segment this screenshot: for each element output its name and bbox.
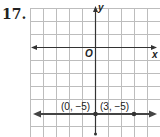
point-0-neg5	[93, 112, 98, 117]
point-label-3-neg5: (3, −5)	[100, 101, 129, 112]
point-label-0-neg5: (0, −5)	[61, 101, 90, 112]
coordinate-graph	[0, 0, 160, 137]
origin-label: O	[85, 48, 93, 59]
line-left-arrow-icon	[33, 111, 41, 118]
y-axis-label: y	[98, 2, 104, 13]
line-right-arrow-icon	[149, 111, 157, 118]
x-axis-left-arrow-icon	[31, 45, 37, 50]
point-3-neg5	[132, 112, 137, 117]
x-axis-label: x	[152, 49, 158, 60]
